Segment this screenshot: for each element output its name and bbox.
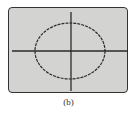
figure-caption: (b) [0, 97, 137, 107]
